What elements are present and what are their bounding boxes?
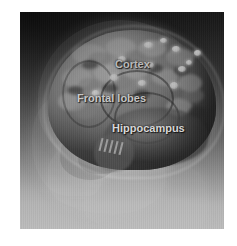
plaque-spot (194, 50, 201, 56)
plaque-spot (144, 42, 153, 48)
image-plate: Cortex Frontal lobes Hippocampus (20, 12, 224, 229)
plaque-spot (170, 82, 178, 89)
gyrus-shape (182, 88, 204, 103)
plaque-spot (160, 38, 167, 43)
plaque-spot (186, 60, 192, 65)
label-cortex: Cortex (115, 59, 150, 70)
plaque-spot (178, 66, 186, 72)
label-hippocampus: Hippocampus (112, 123, 185, 134)
brain-anatomy-figure: Cortex Frontal lobes Hippocampus (0, 0, 237, 246)
label-frontal-lobes: Frontal lobes (77, 93, 146, 104)
plaque-spot (172, 46, 180, 52)
plaque-spot (110, 74, 118, 81)
plaque-spot (138, 80, 146, 86)
